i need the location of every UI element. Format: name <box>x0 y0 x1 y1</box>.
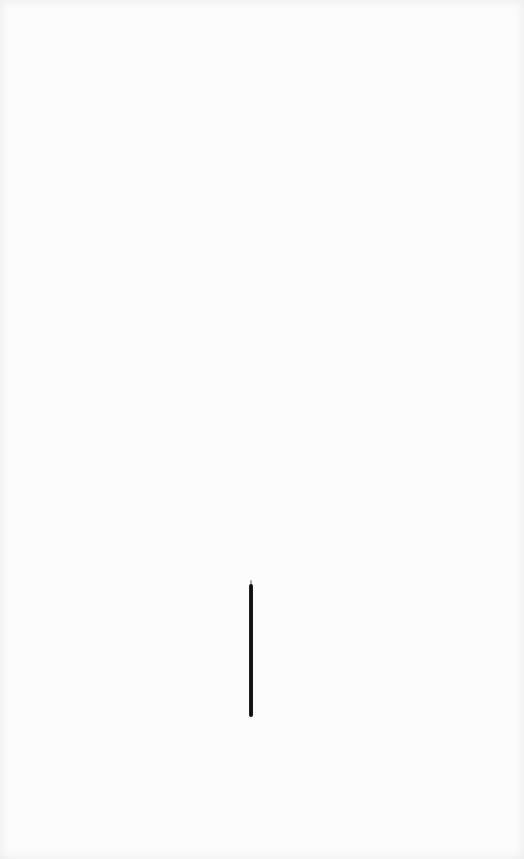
blank-canvas[interactable] <box>0 0 524 859</box>
vertical-ink-stroke <box>249 584 253 717</box>
